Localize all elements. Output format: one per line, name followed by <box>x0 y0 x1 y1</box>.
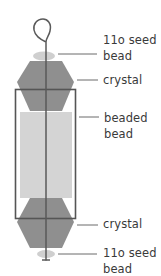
label-top-seed-bead-line1: 11o seed <box>103 32 157 48</box>
label-bottom-seed-bead-line1: 11o seed <box>103 245 157 261</box>
label-top-seed-bead-line2: bead <box>103 48 157 64</box>
top-seed-bead-shape <box>33 52 55 61</box>
label-bottom-crystal: crystal <box>103 216 142 232</box>
label-bottom-seed-bead-line2: bead <box>103 261 157 276</box>
label-bottom-crystal-line1: crystal <box>103 216 142 232</box>
label-top-crystal-line1: crystal <box>103 72 142 88</box>
label-beaded-bead-line2: bead <box>104 126 148 142</box>
label-top-seed-bead: 11o seed bead <box>103 32 157 64</box>
label-top-crystal: crystal <box>103 72 142 88</box>
label-bottom-seed-bead: 11o seed bead <box>103 245 157 276</box>
label-beaded-bead: beaded bead <box>104 110 148 142</box>
label-beaded-bead-line1: beaded <box>104 110 148 126</box>
